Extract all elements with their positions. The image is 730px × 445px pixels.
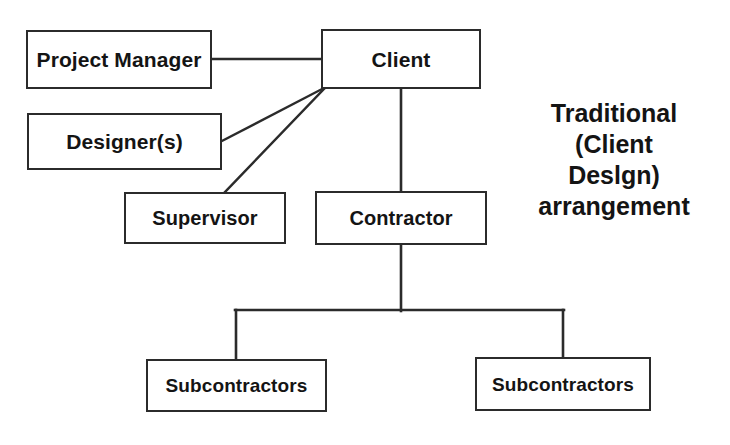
node-supervisor[interactable]: Supervisor <box>124 192 286 244</box>
node-client[interactable]: Client <box>321 29 481 89</box>
caption-line-1: Traditional <box>500 98 728 129</box>
diagram-caption: Traditional (Client Deslgn) arrangement <box>500 98 728 222</box>
connector-client-supervisor <box>225 89 324 192</box>
node-subcontractors-right-label: Subcontractors <box>492 375 634 394</box>
node-subcontractors-left[interactable]: Subcontractors <box>146 359 327 412</box>
node-project-manager-label: Project Manager <box>37 49 202 70</box>
node-subcontractors-left-label: Subcontractors <box>166 376 308 395</box>
node-designers-label: Designer(s) <box>66 131 183 152</box>
connector-client-designers <box>222 89 322 141</box>
node-subcontractors-right[interactable]: Subcontractors <box>475 357 651 411</box>
node-project-manager[interactable]: Project Manager <box>26 30 212 89</box>
node-contractor-label: Contractor <box>349 208 452 228</box>
node-contractor[interactable]: Contractor <box>315 191 487 245</box>
caption-line-2: (Client <box>500 129 728 160</box>
caption-line-3: Deslgn) <box>500 160 728 191</box>
caption-line-4: arrangement <box>500 191 728 222</box>
node-client-label: Client <box>372 49 431 70</box>
organisation-chart-diagram: Project Manager Client Designer(s) Super… <box>0 0 730 445</box>
node-supervisor-label: Supervisor <box>152 208 257 228</box>
node-designers[interactable]: Designer(s) <box>27 113 222 170</box>
